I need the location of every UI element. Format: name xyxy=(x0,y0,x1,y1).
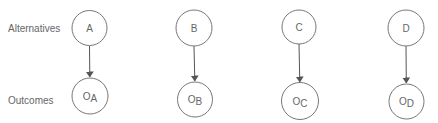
outcome-sub-b: B xyxy=(196,96,203,107)
alternative-label-a: A xyxy=(86,23,93,34)
alternative-label-c: C xyxy=(295,22,302,33)
node-group-b: B OB xyxy=(176,10,213,117)
edge-b-to-ob xyxy=(194,46,195,81)
edge-c-to-oc xyxy=(299,44,300,82)
outcome-sub-d: D xyxy=(407,98,414,109)
row-label-outcomes: Outcomes xyxy=(8,95,54,106)
alternatives-outcomes-diagram: Alternatives Outcomes A OA B OB C OC D O… xyxy=(0,0,438,123)
node-group-c: C OC xyxy=(282,10,319,120)
node-group-d: D OD xyxy=(388,10,424,119)
node-group-a: A OA xyxy=(72,11,108,115)
outcome-sub-c: C xyxy=(300,98,307,109)
alternative-label-d: D xyxy=(402,23,409,34)
alternative-label-b: B xyxy=(191,23,198,34)
outcome-sub-a: A xyxy=(91,93,98,104)
row-label-alternatives: Alternatives xyxy=(8,23,60,34)
